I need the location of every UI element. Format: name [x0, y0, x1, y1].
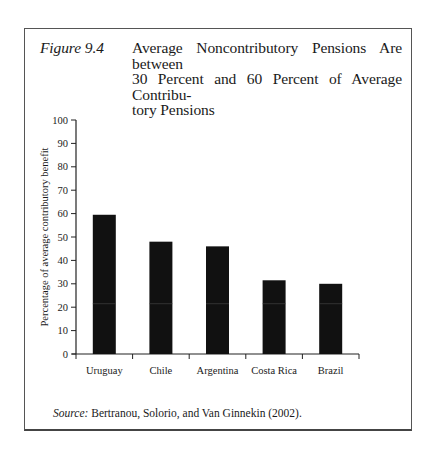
y-tick-label: 60 [58, 208, 69, 219]
y-tick-label: 0 [63, 349, 68, 360]
bar-argentina [206, 246, 229, 354]
y-tick-label: 90 [58, 138, 69, 149]
x-tick-label: Brazil [318, 365, 344, 376]
y-axis: 0102030405060708090100 [52, 115, 76, 360]
source-note: Source: Bertranou, Solorio, and Van Ginn… [53, 407, 302, 419]
x-tick-label: Argentina [197, 365, 239, 376]
y-tick-label: 30 [58, 278, 69, 289]
y-tick-label: 40 [58, 255, 69, 266]
source-label: Source: [53, 407, 88, 419]
x-tick-label: Uruguay [86, 365, 123, 376]
y-tick-label: 20 [58, 302, 69, 313]
bar-brazil [319, 284, 342, 354]
bar-uruguay [93, 215, 116, 354]
y-axis-label: Percentage of average contributory benef… [39, 147, 50, 326]
y-tick-label: 80 [58, 161, 69, 172]
bar-chile [149, 242, 172, 354]
bar-chart: 0102030405060708090100 UruguayChileArgen… [0, 0, 433, 455]
bar-costa-rica [263, 280, 286, 354]
y-tick-label: 10 [58, 325, 69, 336]
y-tick-label: 100 [52, 115, 68, 126]
bars [93, 215, 342, 354]
source-text: Bertranou, Solorio, and Van Ginnekin (20… [88, 407, 301, 419]
x-tick-label: Chile [150, 365, 173, 376]
x-axis: UruguayChileArgentinaCosta RicaBrazil [72, 354, 359, 376]
y-tick-label: 50 [58, 232, 69, 243]
y-tick-label: 70 [58, 185, 69, 196]
x-tick-label: Costa Rica [251, 365, 297, 376]
